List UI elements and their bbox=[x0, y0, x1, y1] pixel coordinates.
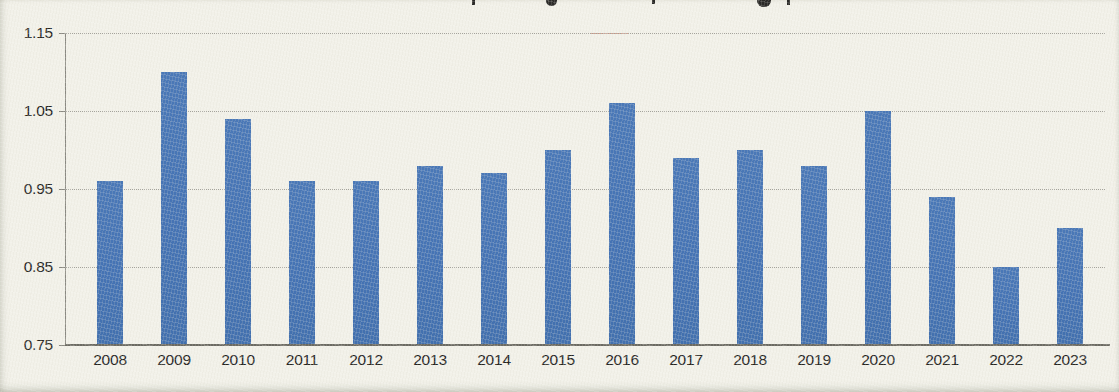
y-axis-tick-label: 1.05 bbox=[6, 102, 53, 120]
x-axis-tick-label: 2012 bbox=[334, 351, 398, 369]
x-axis-tick-label: 2015 bbox=[526, 351, 590, 369]
bar bbox=[801, 166, 827, 344]
y-axis-tick bbox=[59, 267, 65, 268]
title-fragment bbox=[787, 0, 790, 5]
bar bbox=[673, 158, 699, 344]
x-axis-tick-label: 2017 bbox=[654, 351, 718, 369]
x-axis-tick-label: 2022 bbox=[974, 351, 1038, 369]
bar bbox=[481, 173, 507, 344]
x-axis-tick-label: 2020 bbox=[846, 351, 910, 369]
x-axis-tick-label: 2010 bbox=[206, 351, 270, 369]
bar bbox=[97, 181, 123, 344]
y-axis-tick-label: 0.75 bbox=[6, 336, 53, 354]
x-axis-tick-label: 2023 bbox=[1038, 351, 1102, 369]
gridline bbox=[65, 189, 1105, 190]
x-axis-tick-label: 2018 bbox=[718, 351, 782, 369]
y-axis-tick bbox=[59, 111, 65, 112]
x-axis-tick-label: 2008 bbox=[78, 351, 142, 369]
title-fragment bbox=[472, 0, 475, 5]
bar bbox=[161, 72, 187, 344]
bar bbox=[737, 150, 763, 344]
bar bbox=[865, 111, 891, 344]
y-axis-tick bbox=[59, 345, 65, 346]
title-fragment bbox=[652, 0, 655, 4]
title-fragment bbox=[546, 0, 557, 6]
x-axis-tick-label: 2014 bbox=[462, 351, 526, 369]
x-axis-baseline bbox=[65, 344, 1110, 346]
x-axis-tick-label: 2019 bbox=[782, 351, 846, 369]
x-axis-tick-label: 2011 bbox=[270, 351, 334, 369]
x-axis-tick-label: 2009 bbox=[142, 351, 206, 369]
bar bbox=[545, 150, 571, 344]
bar bbox=[289, 181, 315, 344]
bar bbox=[225, 119, 251, 344]
bar bbox=[417, 166, 443, 344]
bar bbox=[929, 197, 955, 344]
x-axis-tick-label: 2016 bbox=[590, 351, 654, 369]
scanned-chart-page: 1.151.050.950.850.7520082009201020112012… bbox=[0, 0, 1119, 392]
title-fragment bbox=[757, 0, 771, 7]
y-axis-tick bbox=[59, 33, 65, 34]
gridline bbox=[65, 111, 1105, 112]
gridline bbox=[65, 33, 1105, 34]
bar bbox=[1057, 228, 1083, 344]
x-axis-tick-label: 2013 bbox=[398, 351, 462, 369]
bar bbox=[993, 267, 1019, 344]
bar bbox=[609, 103, 635, 344]
y-axis-tick-label: 0.95 bbox=[6, 180, 53, 198]
bar bbox=[353, 181, 379, 344]
y-axis-tick bbox=[59, 189, 65, 190]
y-axis-tick-label: 1.15 bbox=[6, 24, 53, 42]
y-axis-tick-label: 0.85 bbox=[6, 258, 53, 276]
x-axis-tick-label: 2021 bbox=[910, 351, 974, 369]
